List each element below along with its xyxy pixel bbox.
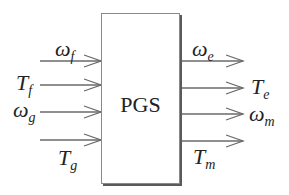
output-arrow-t-e — [180, 82, 243, 94]
output-label-t-e: Te — [251, 76, 269, 98]
pgs-block-diagram: PGS ωf Tf ωg Tg ωe Te ωm Tm — [0, 0, 289, 195]
input-arrow-omega-g — [40, 106, 101, 118]
input-label-t-f: Tf — [16, 72, 32, 94]
pgs-block: PGS — [101, 13, 180, 184]
input-label-t-g: Tg — [58, 147, 77, 169]
output-label-t-m: Tm — [193, 146, 215, 168]
output-arrow-omega-m — [180, 108, 243, 120]
block-label: PGS — [102, 94, 179, 116]
input-arrow-t-f — [40, 79, 101, 91]
output-label-omega-m: ωm — [249, 103, 275, 125]
input-arrow-t-g — [40, 134, 101, 146]
output-label-omega-e: ωe — [192, 38, 214, 60]
input-label-omega-g: ωg — [13, 99, 36, 121]
input-label-omega-f: ωf — [55, 38, 74, 60]
